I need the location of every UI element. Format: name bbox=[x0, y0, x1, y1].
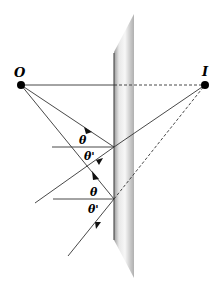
incident-ray-2 bbox=[21, 85, 114, 199]
mirror bbox=[114, 14, 134, 278]
angle-reflection-2-label: θ' bbox=[88, 203, 99, 216]
angle-incidence-2-label: θ bbox=[90, 186, 98, 199]
angle-reflection-1-label: θ' bbox=[84, 150, 95, 163]
arrow-icon bbox=[84, 127, 92, 134]
object-label: O bbox=[14, 65, 26, 80]
arrow-icon bbox=[95, 222, 101, 229]
image-label: I bbox=[201, 64, 209, 79]
reflected-ray-1 bbox=[35, 147, 114, 203]
incident-ray-1 bbox=[21, 85, 114, 147]
reflection-diagram: O I θ θ' θ θ' bbox=[0, 0, 222, 286]
arrow-icon bbox=[92, 171, 99, 180]
image-point bbox=[201, 81, 209, 89]
angle-incidence-1-label: θ bbox=[79, 134, 87, 147]
object-point bbox=[17, 81, 25, 89]
